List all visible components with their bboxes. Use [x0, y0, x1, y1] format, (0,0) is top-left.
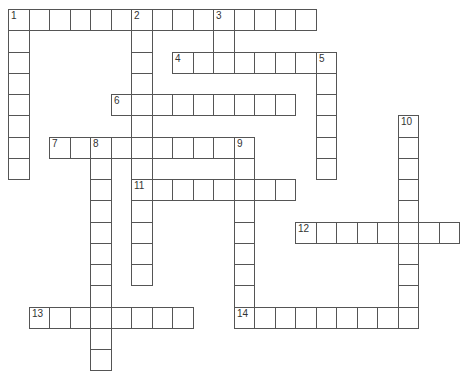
crossword-cell[interactable]: [193, 137, 214, 159]
crossword-cell[interactable]: [275, 9, 296, 31]
crossword-cell[interactable]: [213, 30, 235, 53]
crossword-cell[interactable]: [398, 179, 419, 201]
crossword-cell[interactable]: [49, 307, 71, 329]
crossword-cell[interactable]: [49, 9, 71, 31]
crossword-cell[interactable]: [172, 137, 194, 159]
crossword-cell[interactable]: [70, 9, 91, 31]
crossword-cell[interactable]: [254, 9, 276, 31]
crossword-cell[interactable]: 10: [398, 115, 419, 138]
crossword-cell[interactable]: [357, 222, 378, 244]
crossword-cell[interactable]: [131, 264, 153, 286]
crossword-cell[interactable]: 8: [90, 137, 112, 159]
crossword-cell[interactable]: [29, 9, 50, 31]
crossword-cell[interactable]: [336, 222, 358, 244]
crossword-cell[interactable]: [336, 307, 358, 329]
crossword-cell[interactable]: [111, 9, 132, 31]
crossword-cell[interactable]: [8, 115, 30, 138]
crossword-cell[interactable]: [131, 73, 153, 95]
crossword-cell[interactable]: 1: [8, 9, 30, 31]
crossword-cell[interactable]: [131, 158, 153, 180]
crossword-cell[interactable]: [398, 158, 419, 180]
crossword-cell[interactable]: [357, 307, 378, 329]
crossword-cell[interactable]: 4: [172, 52, 194, 74]
crossword-cell[interactable]: 14: [234, 307, 255, 329]
crossword-cell[interactable]: [398, 200, 419, 223]
crossword-cell[interactable]: [8, 73, 30, 95]
crossword-cell[interactable]: [131, 137, 153, 159]
crossword-cell[interactable]: [131, 94, 153, 116]
crossword-cell[interactable]: [172, 9, 194, 31]
crossword-cell[interactable]: [254, 179, 276, 201]
crossword-cell[interactable]: [234, 158, 255, 180]
crossword-cell[interactable]: [111, 137, 132, 159]
crossword-cell[interactable]: [316, 222, 337, 244]
crossword-cell[interactable]: [213, 137, 235, 159]
crossword-cell[interactable]: [111, 307, 132, 329]
crossword-cell[interactable]: [275, 179, 296, 201]
crossword-cell[interactable]: [172, 179, 194, 201]
crossword-cell[interactable]: 9: [234, 137, 255, 159]
crossword-cell[interactable]: [8, 158, 30, 180]
crossword-cell[interactable]: [418, 222, 440, 244]
crossword-cell[interactable]: [131, 52, 153, 74]
crossword-cell[interactable]: [90, 158, 112, 180]
crossword-cell[interactable]: [275, 307, 296, 329]
crossword-cell[interactable]: 6: [111, 94, 132, 116]
crossword-cell[interactable]: [90, 222, 112, 244]
crossword-cell[interactable]: [295, 52, 317, 74]
crossword-cell[interactable]: [316, 158, 337, 180]
crossword-cell[interactable]: [90, 179, 112, 201]
crossword-cell[interactable]: [90, 243, 112, 265]
crossword-cell[interactable]: [234, 179, 255, 201]
crossword-cell[interactable]: [316, 307, 337, 329]
crossword-cell[interactable]: [295, 9, 317, 31]
crossword-cell[interactable]: 7: [49, 137, 71, 159]
crossword-cell[interactable]: [213, 94, 235, 116]
crossword-cell[interactable]: [377, 307, 399, 329]
crossword-cell[interactable]: 13: [29, 307, 50, 329]
crossword-cell[interactable]: [398, 222, 419, 244]
crossword-cell[interactable]: [295, 307, 317, 329]
crossword-cell[interactable]: [152, 179, 173, 201]
crossword-cell[interactable]: [234, 9, 255, 31]
crossword-cell[interactable]: 11: [131, 179, 153, 201]
crossword-cell[interactable]: [254, 94, 276, 116]
crossword-cell[interactable]: [90, 307, 112, 329]
crossword-cell[interactable]: [234, 243, 255, 265]
crossword-cell[interactable]: [90, 349, 112, 371]
crossword-cell[interactable]: [172, 307, 194, 329]
crossword-cell[interactable]: [398, 264, 419, 286]
crossword-cell[interactable]: [193, 94, 214, 116]
crossword-cell[interactable]: [398, 307, 419, 329]
crossword-cell[interactable]: [234, 285, 255, 308]
crossword-cell[interactable]: [234, 52, 255, 74]
crossword-cell[interactable]: 3: [213, 9, 235, 31]
crossword-cell[interactable]: [398, 137, 419, 159]
crossword-cell[interactable]: 2: [131, 9, 153, 31]
crossword-cell[interactable]: [90, 9, 112, 31]
crossword-cell[interactable]: [316, 94, 337, 116]
crossword-cell[interactable]: [213, 52, 235, 74]
crossword-cell[interactable]: [377, 222, 399, 244]
crossword-cell[interactable]: [131, 200, 153, 223]
crossword-cell[interactable]: [275, 52, 296, 74]
crossword-cell[interactable]: [90, 200, 112, 223]
crossword-cell[interactable]: [316, 73, 337, 95]
crossword-cell[interactable]: [193, 179, 214, 201]
crossword-cell[interactable]: [234, 222, 255, 244]
crossword-cell[interactable]: [398, 285, 419, 308]
crossword-cell[interactable]: [152, 94, 173, 116]
crossword-cell[interactable]: [316, 115, 337, 138]
crossword-cell[interactable]: [131, 307, 153, 329]
crossword-cell[interactable]: [8, 94, 30, 116]
crossword-cell[interactable]: [131, 222, 153, 244]
crossword-cell[interactable]: [234, 200, 255, 223]
crossword-cell[interactable]: [90, 328, 112, 350]
crossword-cell[interactable]: [8, 52, 30, 74]
crossword-cell[interactable]: [152, 9, 173, 31]
crossword-cell[interactable]: [316, 137, 337, 159]
crossword-cell[interactable]: [8, 137, 30, 159]
crossword-cell[interactable]: [193, 52, 214, 74]
crossword-cell[interactable]: [152, 137, 173, 159]
crossword-cell[interactable]: [131, 115, 153, 138]
